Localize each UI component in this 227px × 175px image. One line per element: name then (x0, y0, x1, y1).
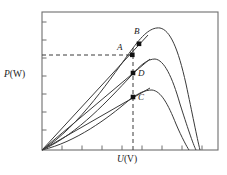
marker-a (130, 53, 135, 58)
marker-b (137, 42, 142, 47)
point-label-c: C (138, 93, 144, 102)
point-label-b: B (134, 27, 140, 36)
power-voltage-figure: A B D C P(W) U(V) (0, 0, 227, 175)
marker-c (131, 95, 136, 100)
x-axis-unit: (V) (124, 154, 137, 164)
marker-d (131, 71, 136, 76)
plot-canvas (0, 0, 227, 175)
x-axis-label: U(V) (117, 155, 137, 165)
x-axis-variable: U (117, 154, 124, 164)
point-label-d: D (138, 69, 145, 78)
y-axis-unit: (W) (10, 69, 25, 79)
point-label-a: A (117, 43, 123, 52)
y-axis-label: P(W) (4, 70, 25, 80)
